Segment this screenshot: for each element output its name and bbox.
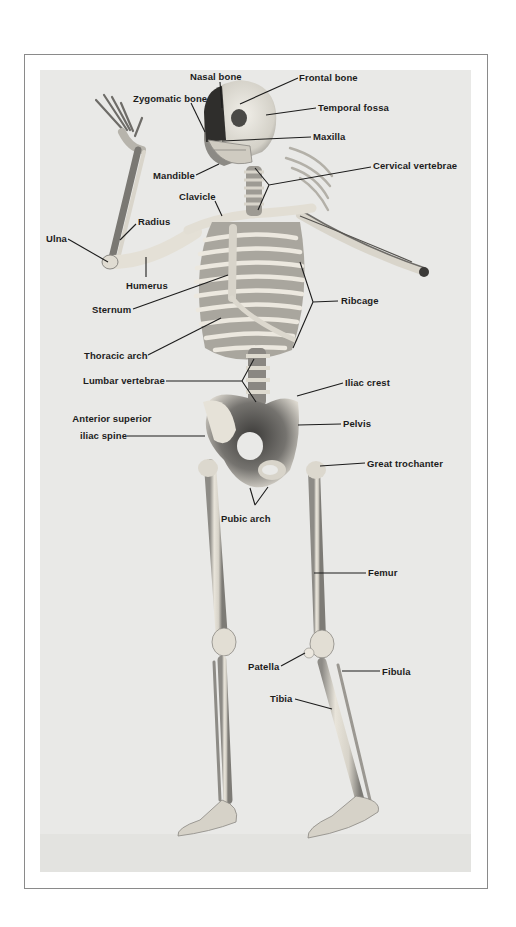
left-knee <box>212 628 236 656</box>
label-pelvis: Pelvis <box>343 418 371 429</box>
label-ulna: Ulna <box>46 233 67 244</box>
lower-leg-bones <box>214 660 370 800</box>
label-tibia: Tibia <box>270 693 293 704</box>
label-femur: Femur <box>368 567 398 578</box>
label-sternum: Sternum <box>92 304 131 315</box>
label-zygomatic-bone: Zygomatic bone <box>133 93 207 104</box>
lumbar-spine <box>246 348 270 406</box>
label-radius: Radius <box>138 216 170 227</box>
label-maxilla: Maxilla <box>313 131 345 142</box>
label-ribcage: Ribcage <box>341 295 379 306</box>
ribcage-bones <box>196 222 305 360</box>
label-thoracic-arch: Thoracic arch <box>84 350 148 361</box>
label-clavicle: Clavicle <box>179 191 216 202</box>
label-fibula: Fibula <box>382 666 411 677</box>
label-patella: Patella <box>248 661 279 672</box>
label-cervical-vertebrae: Cervical vertebrae <box>373 160 457 171</box>
label-pubic-arch: Pubic arch <box>221 513 271 524</box>
label-great-trochanter: Great trochanter <box>367 458 443 469</box>
label-nasal-bone: Nasal bone <box>190 71 242 82</box>
feet <box>178 796 379 838</box>
label-asis-line2: iliac spine <box>64 430 160 441</box>
label-asis-line1: Anterior superior <box>64 413 160 424</box>
right-forearm <box>112 150 144 259</box>
label-temporal-fossa: Temporal fossa <box>318 102 389 113</box>
pelvis-bones <box>203 394 299 487</box>
label-humerus: Humerus <box>126 280 168 291</box>
label-frontal-bone: Frontal bone <box>299 72 358 83</box>
label-lumbar-vertebrae: Lumbar vertebrae <box>83 375 165 386</box>
cervical-spine <box>244 166 264 216</box>
label-mandible: Mandible <box>153 170 195 181</box>
label-iliac-crest: Iliac crest <box>345 377 390 388</box>
floor <box>40 834 471 872</box>
label-anterior-superior-iliac-spine: Anterior superior iliac spine <box>64 413 160 441</box>
